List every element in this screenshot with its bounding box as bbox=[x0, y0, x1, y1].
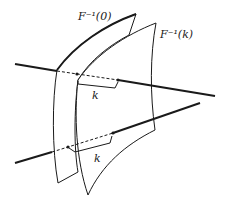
upper-line-left bbox=[15, 64, 57, 71]
surface-k-label: F⁻¹(k) bbox=[159, 28, 193, 41]
upper-point-a bbox=[75, 72, 78, 75]
lower-point-b bbox=[111, 131, 114, 134]
lower-line-left bbox=[15, 152, 52, 163]
upper-offset-label: k bbox=[92, 89, 99, 102]
upper-point-b bbox=[116, 78, 119, 81]
lower-offset-label: k bbox=[94, 152, 101, 165]
level-sets-diagram: k k F⁻¹(0) F⁻¹(k) bbox=[0, 0, 227, 198]
surface-zero-label: F⁻¹(0) bbox=[77, 10, 111, 23]
